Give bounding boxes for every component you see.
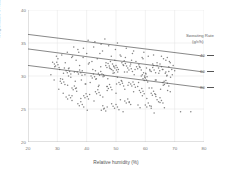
y-axis-ticks: 2025303540 [8,10,26,142]
legend-unit: (g/r/h) [192,39,231,45]
x-tick-label: 20 [20,146,36,151]
legend-line-swatch [207,55,214,56]
y-tick-label: 30 [10,74,26,79]
legend-line-swatch [207,71,214,72]
x-tick-label: 60 [137,146,153,151]
plot-svg [28,10,204,142]
x-tick-label: 40 [79,146,95,151]
legend-line-swatch [207,87,214,88]
x-tick-label: 30 [49,146,65,151]
legend-value: 40 [200,53,205,58]
y-tick-label: 25 [10,107,26,112]
x-tick-label: 70 [167,146,183,151]
legend-value: 60 [200,69,205,74]
legend-row: 40 [200,53,214,58]
x-axis-ticks: 20304050607080 [28,146,204,154]
legend: Sweating Rate (g/r/h) 406080 [186,33,231,44]
x-axis-label: Relative humidity (%) [28,160,204,165]
y-axis-label: Temperature of water zone (dry) [°C] [0,0,1,47]
scatter-chart-figure: Temperature of water zone (dry) [°C] 202… [0,0,231,175]
y-tick-label: 35 [10,41,26,46]
legend-row: 80 [200,85,214,90]
legend-value: 80 [200,85,205,90]
x-tick-label: 80 [196,146,212,151]
legend-row: 60 [200,69,214,74]
y-tick-label: 40 [10,8,26,13]
y-tick-label: 20 [10,140,26,145]
x-tick-label: 50 [108,146,124,151]
plot-area [28,10,204,142]
